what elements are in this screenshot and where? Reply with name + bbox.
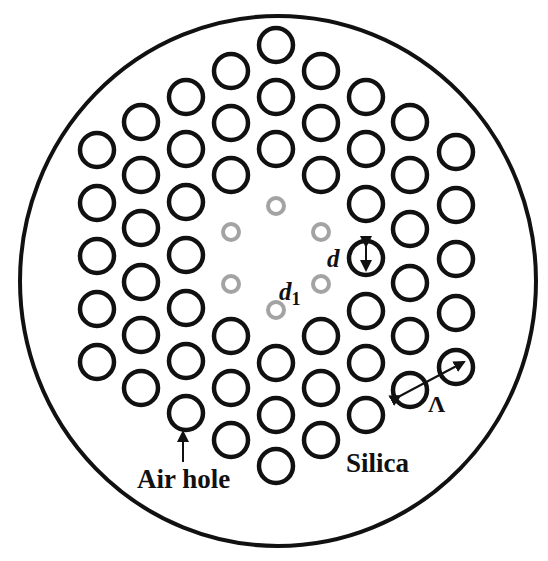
silica-label: Silica — [346, 448, 410, 478]
air-hole-label: Air hole — [137, 464, 230, 494]
d1-label-main: d — [279, 278, 292, 305]
pcf-cross-section-diagram: d d1 Λ Air hole Silica — [0, 0, 548, 561]
d-label: d — [327, 245, 340, 272]
lambda-label: Λ — [428, 391, 446, 417]
d1-label-subscript: 1 — [292, 289, 301, 309]
background — [0, 0, 548, 561]
